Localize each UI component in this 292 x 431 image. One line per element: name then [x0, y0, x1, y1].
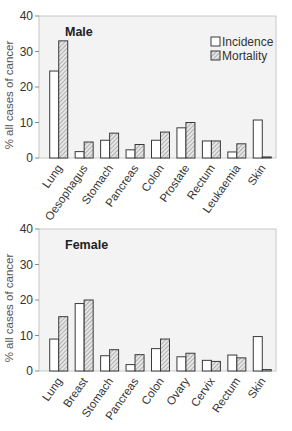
- bar-incidence: [202, 360, 211, 371]
- bar-mortality: [84, 300, 93, 371]
- male-chart-panel: 010203040% all cases of cancerMaleLungOe…: [3, 9, 276, 223]
- legend-label-incidence: Incidence: [222, 35, 274, 49]
- bar-incidence: [253, 337, 262, 371]
- bar-incidence: [50, 71, 59, 158]
- bar-mortality: [135, 355, 144, 371]
- bar-mortality: [84, 142, 93, 158]
- bar-mortality: [135, 145, 144, 158]
- y-tick-label: 20: [20, 80, 34, 94]
- bar-mortality: [186, 123, 195, 159]
- x-tick-label: Lung: [40, 162, 65, 190]
- bar-mortality: [161, 132, 170, 158]
- x-tick-label: Lung: [40, 375, 65, 403]
- bar-mortality: [211, 361, 220, 371]
- panel-title: Male: [65, 25, 93, 39]
- y-axis-label: % all cases of cancer: [3, 41, 15, 150]
- y-tick-label: 20: [20, 293, 34, 307]
- bar-incidence: [202, 141, 211, 158]
- y-tick-label: 40: [20, 222, 34, 236]
- bar-incidence: [177, 357, 186, 371]
- y-tick-label: 0: [26, 364, 33, 378]
- x-tick-label: Skin: [245, 162, 268, 187]
- legend-label-mortality: Mortality: [222, 49, 267, 63]
- bar-mortality: [110, 350, 119, 371]
- bar-incidence: [75, 152, 84, 158]
- bar-incidence: [101, 140, 110, 158]
- bar-mortality: [110, 133, 119, 158]
- bar-incidence: [228, 355, 237, 371]
- x-tick-label: Skin: [245, 375, 268, 400]
- x-tick-label: Colon: [139, 375, 166, 407]
- bar-mortality: [59, 317, 68, 371]
- cancer-incidence-mortality-figure: 010203040% all cases of cancerMaleLungOe…: [0, 0, 292, 431]
- y-axis-label: % all cases of cancer: [3, 254, 15, 363]
- y-tick-label: 30: [20, 45, 34, 59]
- y-tick-label: 10: [20, 329, 34, 343]
- bar-incidence: [177, 128, 186, 158]
- y-tick-label: 10: [20, 116, 34, 130]
- y-tick-label: 30: [20, 258, 34, 272]
- bar-incidence: [50, 339, 59, 371]
- bar-incidence: [152, 140, 161, 158]
- legend-swatch-mortality: [211, 51, 220, 60]
- bar-mortality: [262, 370, 271, 371]
- bar-mortality: [59, 41, 68, 158]
- bar-mortality: [237, 144, 246, 158]
- bar-mortality: [237, 358, 246, 371]
- bar-incidence: [126, 365, 135, 371]
- y-tick-label: 40: [20, 9, 34, 23]
- bar-mortality: [262, 157, 271, 158]
- legend-swatch-incidence: [211, 37, 220, 46]
- y-tick-label: 0: [26, 151, 33, 165]
- bar-incidence: [101, 356, 110, 371]
- bar-incidence: [253, 120, 262, 158]
- bar-mortality: [211, 141, 220, 158]
- bar-mortality: [161, 339, 170, 371]
- female-chart-panel: 010203040% all cases of cancerFemaleLung…: [3, 222, 276, 422]
- bar-incidence: [126, 150, 135, 158]
- bar-incidence: [228, 152, 237, 158]
- bar-incidence: [152, 349, 161, 371]
- bar-incidence: [75, 304, 84, 371]
- panel-title: Female: [65, 238, 108, 252]
- bar-mortality: [186, 353, 195, 371]
